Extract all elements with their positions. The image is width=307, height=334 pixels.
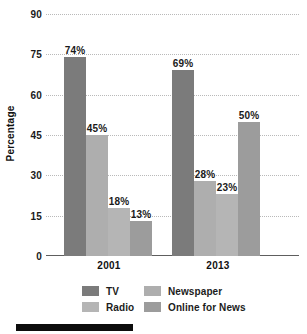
bar-group-2001: 74% 45% 18% 13% — [64, 14, 152, 256]
bar-value-label: 74% — [65, 45, 86, 56]
x-tick-2013: 2013 — [172, 260, 264, 271]
bar-group-2013: 69% 28% 23% 50% — [172, 14, 260, 256]
legend-row-2: Radio Online for News — [82, 299, 282, 315]
legend-item-newspaper[interactable]: Newspaper — [144, 286, 222, 297]
legend-row-1: TV Newspaper — [82, 283, 282, 299]
legend-label-radio: Radio — [106, 302, 134, 313]
legend-label-newspaper: Newspaper — [168, 286, 222, 297]
plot-area: 74% 45% 18% 13% 69% 28% 23% 50 — [46, 14, 299, 256]
bar-2013-tv[interactable]: 69% — [172, 70, 194, 256]
legend-swatch-online — [144, 302, 161, 312]
legend-item-tv[interactable]: TV — [82, 286, 144, 297]
y-tick-60: 60 — [2, 89, 42, 100]
y-axis-tick-labels: 0 15 30 45 60 75 90 — [0, 14, 42, 256]
y-tick-30: 30 — [2, 170, 42, 181]
y-tick-0: 0 — [2, 251, 42, 262]
bar-value-label: 69% — [173, 58, 194, 69]
bar-2001-radio[interactable]: 18% — [108, 208, 130, 256]
bar-2001-online[interactable]: 13% — [130, 221, 152, 256]
y-tick-45: 45 — [2, 130, 42, 141]
legend-swatch-tv — [82, 286, 99, 296]
bar-2013-newspaper[interactable]: 28% — [194, 181, 216, 256]
chart-legend: TV Newspaper Radio Online for News — [82, 283, 282, 315]
bar-value-label: 50% — [239, 110, 260, 121]
legend-label-online: Online for News — [168, 302, 246, 313]
legend-swatch-radio — [82, 302, 99, 312]
y-tick-75: 75 — [2, 49, 42, 60]
y-tick-90: 90 — [2, 9, 42, 20]
bar-2013-radio[interactable]: 23% — [216, 194, 238, 256]
bar-value-label: 45% — [87, 123, 108, 134]
y-tick-15: 15 — [2, 210, 42, 221]
legend-item-radio[interactable]: Radio — [82, 302, 144, 313]
legend-swatch-newspaper — [144, 286, 161, 296]
legend-item-online[interactable]: Online for News — [144, 302, 246, 313]
bar-value-label: 28% — [195, 169, 216, 180]
x-tick-2001: 2001 — [64, 260, 154, 271]
legend-label-tv: TV — [106, 286, 119, 297]
bar-value-label: 23% — [217, 182, 238, 193]
bar-value-label: 18% — [109, 196, 130, 207]
bar-2013-online[interactable]: 50% — [238, 122, 260, 256]
bar-2001-tv[interactable]: 74% — [64, 57, 86, 256]
bottom-rule — [16, 324, 133, 331]
chart-figure: Percentage 0 15 30 45 60 75 90 74% 45% 1… — [0, 0, 307, 334]
bar-value-label: 13% — [131, 209, 152, 220]
bar-2001-newspaper[interactable]: 45% — [86, 135, 108, 256]
